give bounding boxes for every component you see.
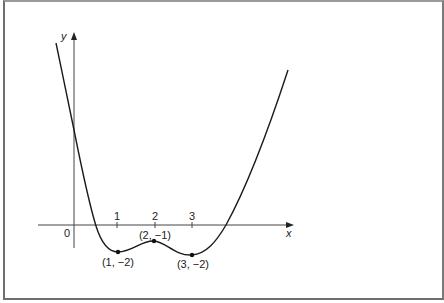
x-tick-label-1: 1	[114, 210, 120, 222]
point-label-3: (3, −2)	[177, 258, 209, 270]
x-tick-label-2: 2	[152, 210, 158, 222]
x-axis-label: x	[285, 227, 292, 239]
x-tick-label-3: 3	[189, 210, 195, 222]
point-label-1: (1, −2)	[102, 256, 134, 268]
origin-label: 0	[64, 227, 70, 239]
point-label-2: (2, −1)	[139, 229, 171, 241]
point-3-minus-2	[190, 253, 194, 257]
function-curve	[56, 43, 288, 255]
y-axis-label: y	[60, 30, 68, 42]
point-1-minus-2	[116, 250, 120, 254]
y-axis-arrow-icon	[71, 32, 77, 40]
